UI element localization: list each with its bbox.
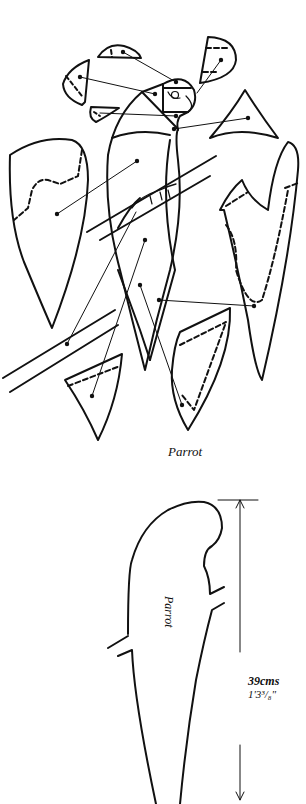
dimension-metric: 39cms bbox=[248, 674, 279, 689]
tail-piece-right bbox=[220, 142, 298, 380]
assembled-body bbox=[57, 92, 254, 405]
chest-piece bbox=[172, 308, 230, 430]
wing-piece-right bbox=[210, 90, 278, 138]
head-cap-piece bbox=[98, 45, 176, 82]
diagram-caption: Parrot bbox=[168, 444, 202, 460]
crest-piece bbox=[197, 37, 236, 93]
assembled-head bbox=[142, 79, 195, 130]
template-inner-label: Parrot bbox=[161, 596, 176, 628]
perch-branch bbox=[3, 156, 216, 392]
dimension-imperial: 1'3³/₈" bbox=[248, 688, 276, 700]
head-side-piece bbox=[63, 60, 155, 105]
parrot-template-outline bbox=[108, 502, 224, 804]
tail-piece-left bbox=[65, 354, 122, 440]
dimension-arrow bbox=[218, 500, 258, 800]
wing-piece-left bbox=[10, 139, 88, 328]
